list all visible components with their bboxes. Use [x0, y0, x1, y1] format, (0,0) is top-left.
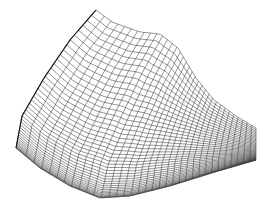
mesh-line-u [67, 45, 256, 139]
mesh-line-u [74, 35, 256, 136]
mesh-line-v [109, 43, 173, 197]
wireframe-surface-plot [0, 0, 267, 210]
mesh-line-v [79, 33, 151, 190]
mesh-line-u [45, 76, 256, 146]
mesh-lines [16, 10, 256, 198]
mesh-line-v [16, 10, 96, 148]
mesh-line-v [101, 40, 167, 198]
mesh-line-u [27, 107, 256, 156]
surface-mesh [0, 0, 267, 210]
left-edge-outline [16, 10, 96, 148]
mesh-line-v [34, 21, 111, 163]
mesh-line-v [159, 77, 195, 189]
